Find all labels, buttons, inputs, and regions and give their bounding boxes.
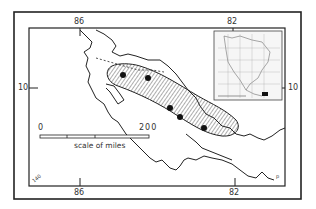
locality-point: [145, 75, 151, 81]
lon-label-top-82: 82: [227, 18, 237, 26]
lat-label-left-10: 10: [18, 84, 28, 92]
locality-point: [177, 114, 183, 120]
range-map: [0, 0, 316, 209]
inset-map: [214, 31, 282, 100]
scale-start-label: 0: [38, 124, 43, 132]
locality-point: [120, 72, 126, 78]
scale-bar: [40, 135, 149, 138]
locality-point: [167, 105, 173, 111]
lat-label-right-10: 10: [288, 84, 298, 92]
lon-label-top-86: 86: [74, 18, 84, 26]
lon-label-bottom-86: 86: [74, 189, 84, 197]
lon-label-bottom-82: 82: [229, 189, 239, 197]
locality-point: [201, 125, 207, 131]
corner-label-bottom-right: p: [276, 174, 279, 179]
scale-end-label: 200: [139, 124, 157, 132]
scale-caption: scale of miles: [74, 142, 125, 150]
southern-coast: [186, 134, 232, 160]
